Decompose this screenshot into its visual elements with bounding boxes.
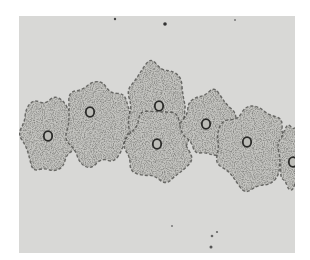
nucleus [86,107,94,117]
nucleus [289,157,295,167]
nucleus [243,137,251,147]
nucleus [44,131,52,141]
nucleus [155,101,163,111]
cell [66,82,134,168]
nucleus [153,139,161,149]
nucleus [202,119,210,129]
cells-illustration [19,16,295,253]
micrograph-image [19,16,295,253]
